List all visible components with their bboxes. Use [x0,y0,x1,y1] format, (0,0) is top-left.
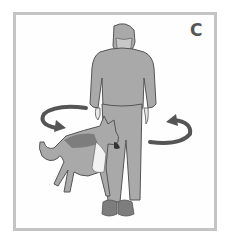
curved-arrow-left-icon [43,107,87,128]
illustration [0,0,228,243]
man-figure [90,24,156,216]
curved-arrow-right-icon [150,120,190,143]
arrowhead-left-icon [54,120,66,132]
arrowhead-right-icon [166,114,178,126]
